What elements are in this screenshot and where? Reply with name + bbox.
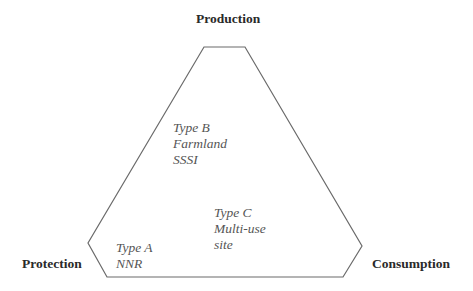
region-label-type-c: Type C Multi-use site: [214, 205, 266, 253]
corner-label-protection: Protection: [22, 256, 82, 272]
region-label-type-b: Type B Farmland SSSI: [173, 120, 227, 168]
region-label-type-a: Type A NNR: [116, 240, 153, 272]
type-c-line-3: site: [214, 237, 266, 253]
type-a-line-1: Type A: [116, 240, 153, 256]
corner-label-production: Production: [196, 11, 260, 27]
type-b-line-1: Type B: [173, 120, 227, 136]
corner-label-consumption: Consumption: [372, 256, 450, 272]
type-b-line-3: SSSI: [173, 152, 227, 168]
type-a-line-2: NNR: [116, 256, 153, 272]
type-b-line-2: Farmland: [173, 136, 227, 152]
type-c-line-2: Multi-use: [214, 221, 266, 237]
type-c-line-1: Type C: [214, 205, 266, 221]
